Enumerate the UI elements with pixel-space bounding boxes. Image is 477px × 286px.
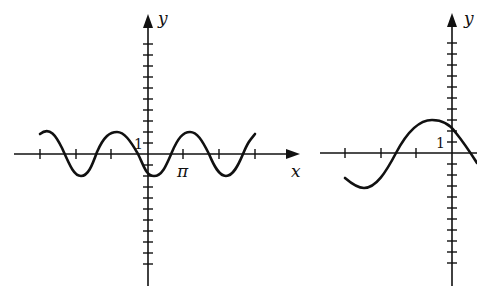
right-curve [345,120,477,188]
right-y-label: y [463,8,474,28]
left-y-arrow-icon [143,14,153,28]
left-one-label: 1 [134,136,143,152]
left-y-label: y [157,8,168,28]
chart-canvas: y x 1 π [0,0,477,286]
left-pi-label: π [176,161,189,181]
right-y-arrow-icon [447,13,457,27]
right-graph: y 1 [320,8,477,286]
right-one-label: 1 [436,135,445,151]
left-x-arrow-icon [286,149,300,159]
left-graph: y x 1 π [14,8,301,286]
left-x-label: x [291,161,301,181]
